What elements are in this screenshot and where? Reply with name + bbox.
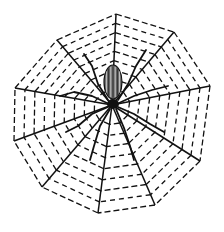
web-spoke xyxy=(98,105,112,213)
web-ring-segment xyxy=(15,40,57,88)
web-ring-segment xyxy=(14,88,15,141)
web-ring-segment xyxy=(54,95,55,126)
web xyxy=(14,14,210,213)
web-ring-segment xyxy=(99,195,150,202)
web-ring-segment xyxy=(182,90,190,150)
web-ring-segment xyxy=(102,174,141,180)
web-ring-segment xyxy=(107,144,129,147)
web-ring-segment xyxy=(104,164,138,169)
web-ring-segment xyxy=(44,93,45,130)
web-ring-segment xyxy=(105,154,133,158)
web-ring-segment xyxy=(146,150,182,185)
web-ring-segment xyxy=(137,138,164,164)
web-ring-segment xyxy=(34,134,56,171)
web-ring-segment xyxy=(68,33,115,54)
web-ring-segment xyxy=(25,47,63,90)
web-ring-segment xyxy=(115,42,155,54)
web-ring-segment xyxy=(56,170,101,191)
web-ring-segment xyxy=(98,205,155,213)
spider-web-illustration: Spider on a dashed orb web xyxy=(0,0,224,232)
web-ring-segment xyxy=(44,130,63,162)
web-spoke xyxy=(15,88,112,105)
web-ring-segment xyxy=(64,123,78,145)
web-ring-segment xyxy=(109,123,119,124)
web-ring-segment xyxy=(55,67,80,95)
web-ring-segment xyxy=(161,47,190,90)
web-ring-segment xyxy=(129,127,146,144)
web-ring-segment xyxy=(24,137,49,178)
web-ring-segment xyxy=(191,88,200,155)
web-ring-segment xyxy=(108,133,124,135)
web-ring-segment xyxy=(14,141,42,187)
web-ring-segment xyxy=(63,23,116,46)
spider-web-graphic xyxy=(0,0,224,232)
web-ring-segment xyxy=(24,90,25,138)
web-ring-segment xyxy=(116,23,168,39)
web-ring-segment xyxy=(34,91,35,133)
web-ring-segment xyxy=(101,185,146,191)
web-ring-segment xyxy=(92,128,108,135)
web-ring-segment xyxy=(174,32,210,86)
web-ring-segment xyxy=(71,153,104,168)
web-ring-segment xyxy=(49,179,99,202)
web-ring-segment xyxy=(74,42,115,60)
web-ring-segment xyxy=(64,162,103,180)
web-ring-segment xyxy=(116,14,174,32)
web-ring-segment xyxy=(142,144,173,174)
web-ring-segment xyxy=(173,92,180,144)
web-ring-segment xyxy=(200,86,210,161)
web-ring-segment xyxy=(164,94,170,138)
web-ring-segment xyxy=(128,102,130,116)
web-ring-segment xyxy=(45,60,74,93)
spider-cephalothorax xyxy=(107,99,119,109)
web-ring-segment xyxy=(42,187,98,213)
